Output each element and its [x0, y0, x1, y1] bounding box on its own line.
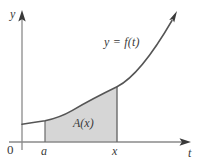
area-region-label: A(x): [73, 117, 94, 129]
tick-label-x: x: [112, 145, 117, 157]
origin-label: 0: [7, 143, 14, 156]
shaded-area-region: [45, 87, 117, 142]
y-axis-label: y: [10, 8, 15, 20]
figure-container: y t 0 a x y = f(t) A(x): [0, 0, 203, 165]
curve-equation-label: y = f(t): [104, 36, 140, 48]
tick-label-a: a: [41, 145, 47, 157]
area-function-plot: [0, 0, 203, 165]
curve-arrowhead: [169, 11, 177, 22]
t-axis-label: t: [188, 147, 191, 159]
